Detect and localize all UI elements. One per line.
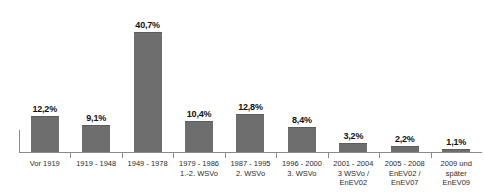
x-axis-label: 1919 - 1948: [70, 159, 121, 194]
bar-column[interactable]: 2,2%: [379, 6, 430, 153]
x-axis-label: Vor 1919: [19, 159, 70, 194]
x-axis-label-line: später: [432, 169, 481, 179]
bar-value-label: 2,2%: [395, 134, 415, 144]
x-axis-label: 2009 undspäterEnEV09: [431, 159, 482, 194]
bar-rect[interactable]: [82, 125, 110, 153]
x-axis-tick: [379, 153, 380, 158]
bar-value-label: 12,8%: [238, 102, 263, 112]
x-axis-label: 1979 - 19861.-2. WSVo: [173, 159, 224, 194]
x-axis-label-line: 1996 - 2000: [277, 159, 326, 169]
bar-value-label: 10,4%: [187, 109, 212, 119]
bar-column[interactable]: 1,1%: [431, 6, 482, 153]
bar-rect[interactable]: [236, 114, 264, 153]
bar-rect[interactable]: [288, 127, 316, 153]
x-axis-label-line: 1949 - 1978: [123, 159, 172, 169]
x-axis-label-line: 1919 - 1948: [71, 159, 120, 169]
bar-column[interactable]: 8,4%: [276, 6, 327, 153]
bar-series: 12,2%9,1%40,7%10,4%12,8%8,4%3,2%2,2%1,1%: [19, 6, 482, 153]
x-axis-label: 1987 - 19952. WSVo: [225, 159, 276, 194]
y-axis-stub: [19, 130, 20, 153]
bar-value-label: 1,1%: [446, 137, 466, 147]
x-axis-label-line: 2005 - 2008: [380, 159, 429, 169]
x-axis-label-line: 1979 - 1986: [174, 159, 223, 169]
x-axis-label-line: 2009 und: [432, 159, 481, 169]
bar-value-label: 40,7%: [135, 20, 160, 30]
bar-value-label: 12,2%: [32, 104, 57, 114]
x-axis-tick: [70, 153, 71, 158]
x-axis-tick: [431, 153, 432, 158]
x-axis-tick: [122, 153, 123, 158]
x-axis-label: 1996 - 20003. WSVo: [276, 159, 327, 194]
x-axis-label: 2005 - 2008EnEV02 /EnEV07: [379, 159, 430, 194]
x-axis-label: 1949 - 1978: [122, 159, 173, 194]
x-axis-label-line: 1.-2. WSVo: [174, 169, 223, 179]
x-axis-label-line: 2001 - 2004: [329, 159, 378, 169]
x-axis-label: 2001 - 20043 WSVo /EnEV02: [328, 159, 379, 194]
x-axis-line: [19, 152, 482, 153]
bar-value-label: 8,4%: [292, 115, 312, 125]
x-axis-tick: [276, 153, 277, 158]
bar-column[interactable]: 10,4%: [173, 6, 224, 153]
x-axis-labels: Vor 19191919 - 19481949 - 19781979 - 198…: [19, 159, 482, 194]
x-axis-label-line: 3 WSVo /: [329, 169, 378, 179]
bar-value-label: 9,1%: [86, 113, 106, 123]
x-axis-tick: [173, 153, 174, 158]
bar-column[interactable]: 3,2%: [328, 6, 379, 153]
bar-rect[interactable]: [31, 116, 59, 153]
x-axis-label-line: 1987 - 1995: [226, 159, 275, 169]
bar-column[interactable]: 40,7%: [122, 6, 173, 153]
bar-column[interactable]: 12,8%: [225, 6, 276, 153]
x-axis-tick: [225, 153, 226, 158]
x-axis-label-line: 3. WSVo: [277, 169, 326, 179]
x-axis-label-line: EnEV07: [380, 178, 429, 188]
bar-column[interactable]: 9,1%: [70, 6, 121, 153]
x-axis-tick: [328, 153, 329, 158]
x-axis-label-line: 2. WSVo: [226, 169, 275, 179]
bar-chart: 12,2%9,1%40,7%10,4%12,8%8,4%3,2%2,2%1,1%…: [0, 0, 484, 194]
x-axis-label-line: EnEV02: [329, 178, 378, 188]
bar-rect[interactable]: [185, 121, 213, 153]
x-axis-label-line: Vor 1919: [20, 159, 69, 169]
x-axis-label-line: EnEV09: [432, 178, 481, 188]
x-axis-label-line: EnEV02 /: [380, 169, 429, 179]
bar-rect[interactable]: [134, 32, 162, 153]
bar-value-label: 3,2%: [343, 131, 363, 141]
bar-column[interactable]: 12,2%: [19, 6, 70, 153]
